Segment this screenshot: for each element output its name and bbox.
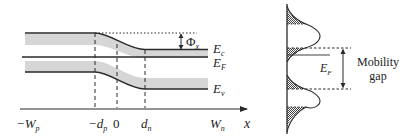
label-Ev: Ev (212, 81, 225, 98)
barrier-arrow (179, 34, 184, 50)
mobility-gap-label-line2: gap (369, 69, 386, 83)
label-phi-x: Φx (186, 34, 200, 51)
x-axis-label: x (243, 116, 251, 131)
band-diagram: Ec EF Ev Φx −Wp −dp 0 dn Wn x (16, 33, 251, 133)
mobility-gap-arrow (341, 49, 346, 89)
dos-label-EF: EF (319, 61, 332, 77)
tick-minus-dp: −dp (88, 116, 107, 133)
figure: Ec EF Ev Φx −Wp −dp 0 dn Wn x EF (0, 0, 411, 139)
tick-zero: 0 (113, 116, 120, 131)
density-of-states: EF Mobility gap (287, 4, 399, 134)
tick-minus-Wp: −Wp (16, 116, 40, 133)
tick-Wn: Wn (210, 116, 225, 133)
tick-dn: dn (141, 116, 152, 133)
mobility-gap-label-line1: Mobility (357, 55, 399, 69)
